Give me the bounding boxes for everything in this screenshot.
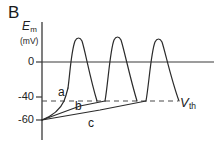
ramp-c-label: c <box>88 117 94 129</box>
figure-panel-b: B Em (mV) 0 -40 -60 a b c Vth <box>0 0 216 146</box>
spike-2-trace <box>105 37 137 101</box>
panel-label: B <box>8 4 19 21</box>
y-tick-label-0: 0 <box>12 56 34 67</box>
y-axis-variable-subscript: m <box>30 25 37 34</box>
y-axis-unit-label: (mV) <box>20 37 38 46</box>
ramp-a-label: a <box>58 86 65 98</box>
y-axis-variable-label: Em <box>22 20 37 34</box>
spike-1-trace <box>68 38 97 101</box>
spike-3-trace <box>146 39 179 101</box>
threshold-label: Vth <box>180 96 196 111</box>
threshold-symbol: V <box>180 95 189 110</box>
y-axis-variable-symbol: E <box>22 19 30 33</box>
ramp-b-label: b <box>75 100 82 112</box>
threshold-subscript: th <box>189 101 196 111</box>
y-tick-label-neg40: -40 <box>8 91 34 102</box>
y-tick-label-neg60: -60 <box>8 114 34 125</box>
